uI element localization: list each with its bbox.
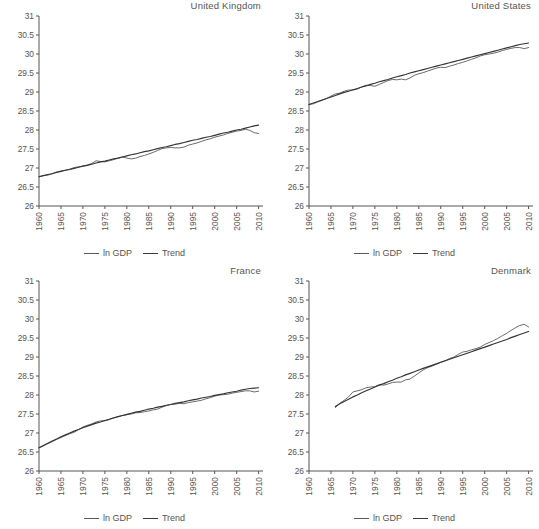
svg-text:1995: 1995 [458,477,468,496]
svg-text:1995: 1995 [188,477,198,496]
svg-text:1960: 1960 [304,477,314,496]
svg-text:2000: 2000 [480,212,490,231]
svg-text:26.5: 26.5 [18,447,35,457]
svg-text:30.5: 30.5 [18,295,35,305]
plot-area: 2626.52727.52828.52929.53030.53119601965… [0,265,269,529]
svg-text:30.5: 30.5 [288,30,305,40]
svg-text:1980: 1980 [392,477,402,496]
chart-panel-united-kingdom: United Kingdom 2626.52727.52828.52929.53… [0,0,269,264]
svg-text:29.5: 29.5 [18,68,35,78]
legend-label-trend: Trend [162,513,185,523]
svg-text:28: 28 [295,390,305,400]
svg-text:29: 29 [295,87,305,97]
svg-text:26.5: 26.5 [288,182,305,192]
svg-text:27: 27 [25,428,35,438]
svg-text:27.5: 27.5 [18,409,35,419]
legend-swatch-trend-icon [143,253,158,254]
svg-text:1970: 1970 [348,477,358,496]
svg-text:2005: 2005 [502,212,512,231]
legend-label-trend: Trend [162,248,185,258]
svg-text:26: 26 [25,466,35,476]
svg-text:2005: 2005 [232,477,242,496]
svg-text:28: 28 [25,125,35,135]
svg-text:1990: 1990 [166,212,176,231]
svg-text:29: 29 [25,352,35,362]
svg-text:1985: 1985 [414,477,424,496]
svg-text:1965: 1965 [326,477,336,496]
svg-text:1970: 1970 [348,212,358,231]
chart-legend: ln GDP Trend [0,248,269,258]
svg-text:29.5: 29.5 [288,68,305,78]
legend-entry-ln-gdp: ln GDP [84,248,132,258]
svg-text:1960: 1960 [304,212,314,231]
legend-swatch-ln-gdp-icon [84,518,99,519]
svg-text:31: 31 [295,276,305,286]
legend-label-trend: Trend [432,513,455,523]
plot-area: 2626.52727.52828.52929.53030.53119601965… [270,265,539,529]
svg-text:1975: 1975 [370,212,380,231]
legend-entry-ln-gdp: ln GDP [354,248,402,258]
svg-text:1970: 1970 [78,212,88,231]
plot-area: 2626.52727.52828.52929.53030.53119601965… [0,0,269,264]
chart-panel-united-states: United States 2626.52727.52828.52929.530… [270,0,539,264]
legend-label-ln-gdp: ln GDP [373,248,402,258]
svg-text:1990: 1990 [436,212,446,231]
svg-text:26.5: 26.5 [288,447,305,457]
svg-text:29: 29 [295,352,305,362]
svg-text:1965: 1965 [326,212,336,231]
svg-text:2000: 2000 [210,477,220,496]
svg-text:2010: 2010 [524,212,534,231]
svg-text:1960: 1960 [34,477,44,496]
svg-text:29.5: 29.5 [18,333,35,343]
chart-legend: ln GDP Trend [270,248,539,258]
chart-legend: ln GDP Trend [270,513,539,523]
svg-text:27: 27 [295,163,305,173]
svg-text:1975: 1975 [100,212,110,231]
chart-panel-france: France 2626.52727.52828.52929.53030.5311… [0,265,269,529]
svg-text:1980: 1980 [392,212,402,231]
chart-legend: ln GDP Trend [0,513,269,523]
svg-text:2010: 2010 [254,477,264,496]
svg-text:1965: 1965 [56,212,66,231]
svg-text:31: 31 [295,11,305,21]
svg-text:26: 26 [295,466,305,476]
legend-entry-trend: Trend [143,248,185,258]
svg-text:1975: 1975 [370,477,380,496]
legend-entry-trend: Trend [143,513,185,523]
svg-text:30: 30 [295,314,305,324]
legend-swatch-ln-gdp-icon [84,253,99,254]
legend-swatch-ln-gdp-icon [354,253,369,254]
svg-text:28.5: 28.5 [288,371,305,381]
svg-text:30.5: 30.5 [18,30,35,40]
legend-entry-ln-gdp: ln GDP [84,513,132,523]
legend-label-ln-gdp: ln GDP [103,248,132,258]
legend-swatch-ln-gdp-icon [354,518,369,519]
svg-text:1980: 1980 [122,477,132,496]
legend-swatch-trend-icon [413,253,428,254]
svg-text:1970: 1970 [78,477,88,496]
svg-text:28.5: 28.5 [288,106,305,116]
svg-text:1990: 1990 [436,477,446,496]
svg-text:1985: 1985 [144,477,154,496]
svg-text:27.5: 27.5 [288,409,305,419]
svg-text:1975: 1975 [100,477,110,496]
svg-text:1980: 1980 [122,212,132,231]
legend-swatch-trend-icon [143,518,158,519]
svg-text:2010: 2010 [524,477,534,496]
svg-text:2005: 2005 [232,212,242,231]
svg-text:1960: 1960 [34,212,44,231]
svg-text:29.5: 29.5 [288,333,305,343]
svg-text:1985: 1985 [144,212,154,231]
legend-label-trend: Trend [432,248,455,258]
svg-text:30: 30 [25,49,35,59]
svg-text:2005: 2005 [502,477,512,496]
legend-label-ln-gdp: ln GDP [373,513,402,523]
svg-text:26: 26 [25,201,35,211]
svg-text:30: 30 [25,314,35,324]
svg-text:1995: 1995 [458,212,468,231]
svg-text:1965: 1965 [56,477,66,496]
svg-text:31: 31 [25,11,35,21]
plot-area: 2626.52727.52828.52929.53030.53119601965… [270,0,539,264]
svg-text:27.5: 27.5 [288,144,305,154]
svg-text:2000: 2000 [210,212,220,231]
